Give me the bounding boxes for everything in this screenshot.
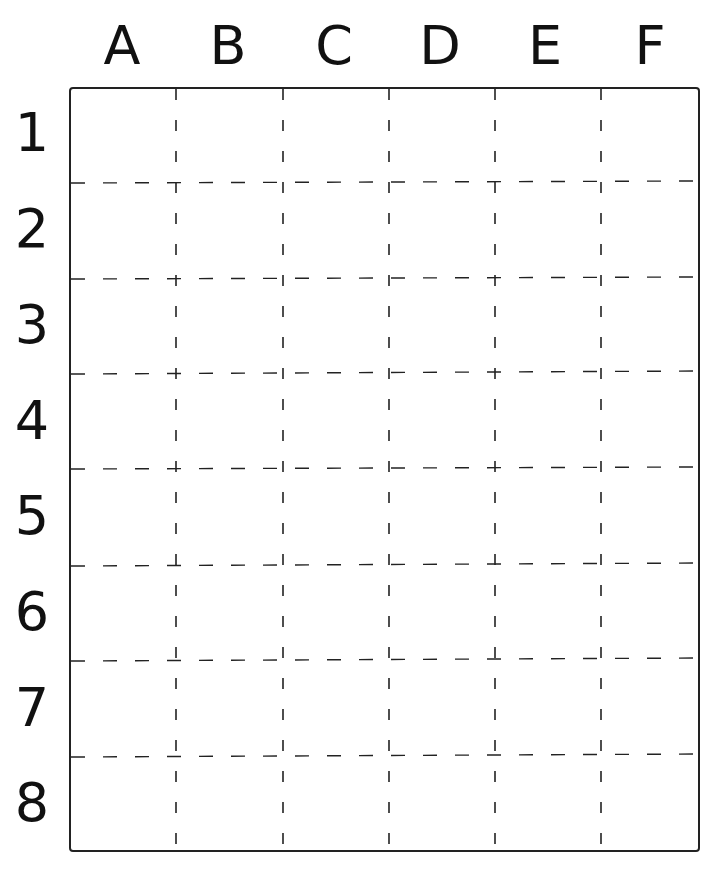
row-label-6: 6 bbox=[4, 582, 60, 642]
row-label-8: 8 bbox=[4, 773, 60, 833]
grid-dashed-lines bbox=[71, 89, 702, 854]
row-divider-34 bbox=[71, 371, 702, 374]
row-label-2: 2 bbox=[4, 199, 60, 259]
row-label-4: 4 bbox=[4, 391, 60, 451]
row-divider-23 bbox=[71, 277, 702, 279]
column-label-a: A bbox=[92, 16, 152, 76]
column-label-d: D bbox=[410, 16, 470, 76]
row-divider-45 bbox=[71, 467, 702, 469]
row-divider-56 bbox=[71, 563, 702, 566]
column-label-f: F bbox=[620, 16, 680, 76]
row-divider-78 bbox=[71, 754, 702, 757]
row-divider-12 bbox=[71, 181, 702, 183]
column-label-e: E bbox=[515, 16, 575, 76]
row-label-1: 1 bbox=[4, 103, 60, 163]
column-label-c: C bbox=[304, 16, 364, 76]
row-divider-67 bbox=[71, 658, 702, 661]
column-label-b: B bbox=[198, 16, 258, 76]
row-label-3: 3 bbox=[4, 295, 60, 355]
row-label-5: 5 bbox=[4, 486, 60, 546]
row-label-7: 7 bbox=[4, 678, 60, 738]
coordinate-grid bbox=[69, 87, 700, 852]
